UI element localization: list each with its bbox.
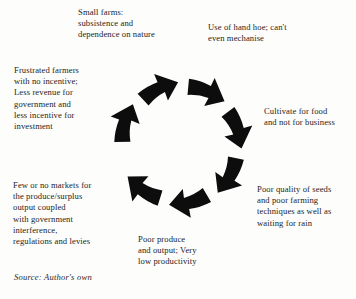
node-line: with no incentive;: [14, 76, 110, 87]
node-line: the produce/surplus: [13, 191, 117, 202]
arrow-segment-4: [206, 151, 256, 202]
cycle-arrow-ring: [92, 36, 268, 252]
source-note: Source: Author's own: [14, 272, 92, 282]
node-line: Poor produce: [138, 234, 234, 245]
node-line: waiting for rain: [257, 218, 356, 229]
node-line: techniques as well as: [257, 206, 356, 217]
node-label-few-markets: Few or no markets for the produce/surplu…: [13, 180, 117, 247]
node-label-poor-seeds: Poor quality of seeds and poor farming t…: [257, 184, 356, 229]
node-line: even mechanise: [208, 33, 348, 44]
node-line: Cultivate for food: [264, 106, 356, 117]
node-line: Few or no markets for: [13, 180, 117, 191]
node-line: Small farms:: [78, 7, 198, 18]
node-label-small-farms: Small farms: subsistence and dependence …: [78, 7, 198, 41]
node-line: government and: [14, 99, 110, 110]
node-line: subsistence and: [78, 18, 198, 29]
node-line: regulations and levies: [13, 236, 117, 247]
node-label-hand-hoe: Use of hand hoe; can't even mechanise: [208, 22, 348, 44]
node-label-poor-produce: Poor produce and output; Very low produc…: [138, 234, 234, 268]
node-line: dependence on nature: [78, 29, 198, 40]
node-line: and poor farming: [257, 195, 356, 206]
node-line: Poor quality of seeds: [257, 184, 356, 195]
arrow-segment-1: [134, 69, 182, 107]
node-line: interference,: [13, 225, 117, 236]
node-line: and output; Very: [138, 245, 234, 256]
node-line: Less revenue for: [14, 87, 110, 98]
arrow-segment-2: [181, 66, 232, 114]
node-line: with government: [13, 214, 117, 225]
arrow-segment-5: [169, 188, 212, 218]
node-line: low productivity: [138, 256, 234, 267]
arrow-segment-3: [221, 105, 255, 150]
node-line: and not for business: [264, 117, 356, 128]
arrow-segment-6: [118, 166, 168, 217]
node-label-frustrated-farmers: Frustrated farmers with no incentive; Le…: [14, 65, 110, 132]
node-line: Use of hand hoe; can't: [208, 22, 348, 33]
node-line: output coupled: [13, 202, 117, 213]
node-line: Frustrated farmers: [14, 65, 110, 76]
node-label-cultivate-food: Cultivate for food and not for business: [264, 106, 356, 128]
node-line: investment: [14, 121, 110, 132]
node-line: less incentive for: [14, 110, 110, 121]
figure-canvas: Small farms: subsistence and dependence …: [0, 0, 356, 299]
